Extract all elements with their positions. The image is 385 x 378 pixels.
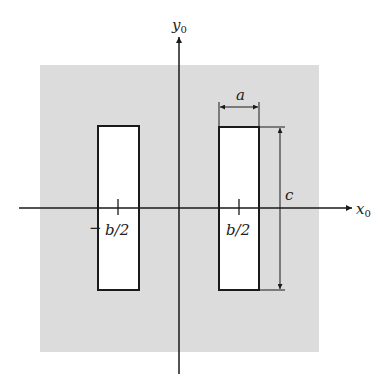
x-axis-label: x0 [356,200,371,219]
right-center-label: b/2 [226,221,250,239]
x-axis-label-subscript: 0 [364,208,370,219]
height-label: c [285,186,294,204]
aperture-diagram: y0 x0 a c − b/2 b/2 [0,0,385,378]
y-axis-label: y0 [171,16,187,35]
width-label: a [236,86,245,104]
left-center-label: b/2 [105,221,129,239]
y-axis-label-subscript: 0 [180,24,186,35]
left-center-label-sign: − [89,219,102,237]
